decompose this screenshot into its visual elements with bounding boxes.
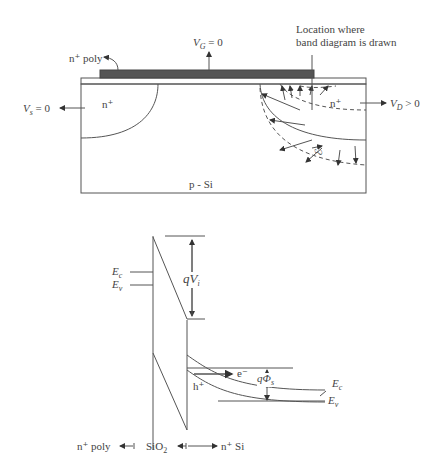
surface-potential-symbol: Φ [263, 372, 271, 384]
drain-voltage-symbol: V [390, 97, 397, 109]
location-annotation-line1: Location where [296, 24, 365, 35]
conduction-band-curve [187, 355, 325, 390]
gate-voltage-symbol: V [193, 36, 200, 48]
gate-voltage-value: = 0 [208, 36, 222, 48]
drain-junction [260, 84, 366, 140]
location-annotation-line2: band diagram is drawn [296, 37, 397, 48]
diagram-canvas [0, 0, 442, 463]
electron-label: e⁻ [237, 368, 248, 379]
drain-voltage-sub: D [397, 103, 403, 112]
drain-voltage-label: VD > 0 [390, 98, 420, 112]
ev-left-symbol: E [112, 278, 119, 290]
bottom-label-si: n⁺ Si [221, 441, 244, 452]
substrate-outline [81, 84, 366, 193]
gate-poly-label: n⁺ poly [69, 53, 103, 64]
source-voltage-sub: s [30, 108, 33, 117]
ev-right-sub: v [335, 400, 339, 409]
oxide-drop-label: qVi [183, 272, 200, 288]
oxide-drop-sub: i [197, 279, 199, 288]
ec-left-symbol: E [112, 265, 119, 277]
ec-right-label: Ec [332, 378, 342, 392]
hole-label: h⁺ [193, 381, 204, 392]
gate-voltage-label: VG = 0 [193, 37, 223, 51]
source-voltage-value: = 0 [36, 102, 50, 114]
valence-band-curve [187, 370, 325, 402]
band-diagram [120, 236, 326, 450]
ev-left-label: Ev [112, 279, 122, 293]
ev-left-sub: v [119, 284, 123, 293]
gate-poly [100, 70, 314, 78]
oxide-valence-slope [153, 353, 187, 430]
ev-right-symbol: E [328, 394, 335, 406]
ec-right-symbol: E [332, 377, 339, 389]
oxide-layer [81, 78, 366, 84]
oxide-sub: 2 [163, 446, 167, 455]
ev-right-label: Ev [328, 395, 338, 409]
ec-right-sub: c [339, 383, 343, 392]
source-junction [81, 84, 158, 138]
source-voltage-symbol: V [23, 102, 30, 114]
depletion-edge-inner [280, 84, 366, 110]
source-region-label: n⁺ [102, 99, 113, 110]
source-voltage-label: Vs = 0 [23, 103, 50, 117]
oxide-base: SiO [146, 440, 163, 452]
electric-field-label: ℰ [314, 150, 324, 156]
surface-potential-label: qΦs [257, 373, 274, 387]
gate-voltage-sub: G [200, 42, 206, 51]
surface-potential-sub: s [271, 378, 274, 387]
drain-region-label: n⁺ [330, 98, 341, 109]
drain-voltage-value: > 0 [405, 97, 419, 109]
bottom-label-poly: n⁺ poly [77, 441, 111, 452]
substrate-label: p - Si [189, 179, 213, 190]
mosfet-cross-section [60, 52, 386, 193]
bottom-label-oxide: SiO2 [146, 441, 167, 455]
poly-pointer [104, 57, 118, 70]
